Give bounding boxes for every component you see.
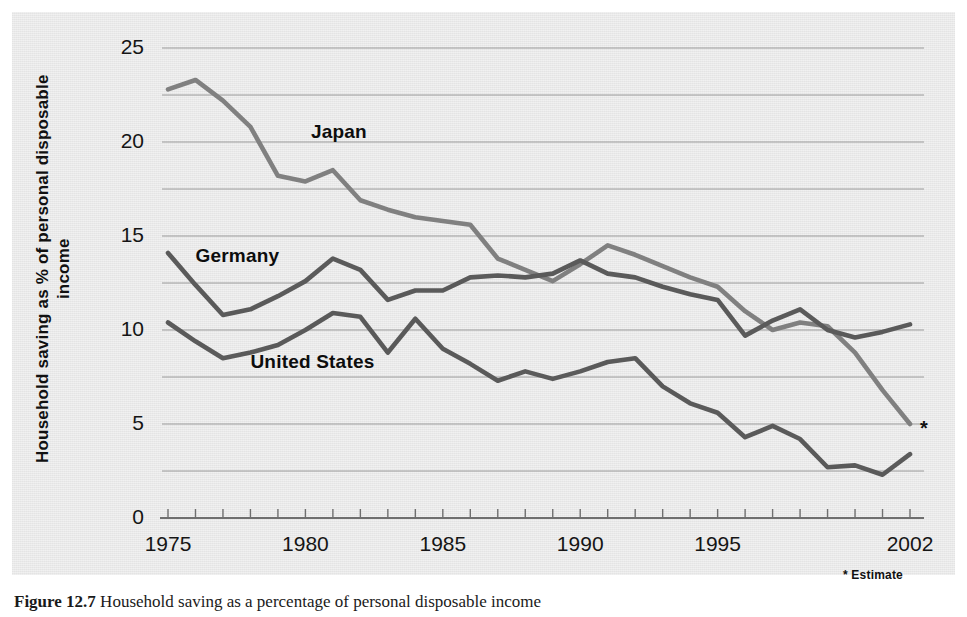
figure-root: Household saving as % of personal dispos… — [0, 0, 967, 617]
series-label-japan: Japan — [311, 121, 367, 143]
x-tick-label: 1980 — [282, 532, 329, 556]
figure-caption-text: Household saving as a percentage of pers… — [100, 592, 541, 611]
estimate-footnote: * Estimate — [843, 568, 903, 582]
series-line-united-states — [168, 313, 910, 475]
x-axis-ticks-group — [168, 509, 910, 518]
series-label-united-states: United States — [250, 351, 374, 373]
x-tick-label: 1995 — [694, 532, 741, 556]
chart-plot-area — [12, 12, 955, 575]
y-tick-label: 20 — [98, 129, 144, 153]
series-label-germany: Germany — [195, 245, 279, 267]
x-tick-label: 1990 — [557, 532, 604, 556]
x-tick-label: 2002 — [887, 532, 934, 556]
y-tick-label: 10 — [98, 317, 144, 341]
y-tick-label: 5 — [98, 411, 144, 435]
figure-caption-label: Figure 12.7 — [14, 592, 96, 611]
series-paths-group — [168, 80, 910, 475]
y-tick-label: 0 — [98, 505, 144, 529]
figure-caption: Figure 12.7 Household saving as a percen… — [14, 592, 944, 612]
estimate-asterisk-marker: * — [920, 418, 928, 438]
x-tick-label: 1975 — [145, 532, 192, 556]
y-tick-label: 25 — [98, 35, 144, 59]
x-tick-label: 1985 — [419, 532, 466, 556]
chart-panel: Household saving as % of personal dispos… — [12, 12, 955, 575]
y-axis-tick-labels: 2520151050 — [98, 12, 144, 575]
y-tick-label: 15 — [98, 223, 144, 247]
